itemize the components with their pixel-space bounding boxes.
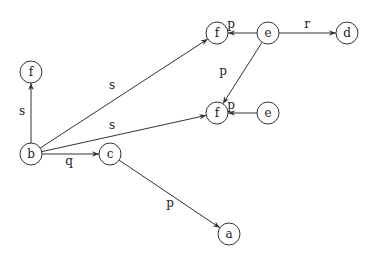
edge-label: p [219, 64, 227, 78]
edge-label: p [166, 196, 174, 210]
edge-line [40, 39, 208, 148]
edge-e-d: r [279, 17, 336, 33]
edge-e-f: p [227, 98, 257, 113]
edge-e-f: p [219, 42, 262, 103]
edge-b-f: s [40, 39, 208, 148]
edge-c-a: p [119, 160, 220, 228]
node-label: e [264, 26, 271, 40]
edge-line [223, 42, 262, 103]
edge-label: s [19, 104, 25, 118]
edge-b-c: q [42, 154, 99, 168]
node-c: c [99, 143, 121, 165]
node-label: c [107, 147, 114, 161]
node-b: b [20, 143, 42, 165]
node-label: e [264, 106, 271, 120]
node-label: b [27, 147, 35, 161]
node-label: d [343, 26, 351, 40]
graph-canvas: sssqpprpp fbcafedfe [0, 0, 376, 265]
edge-label: s [109, 78, 115, 92]
edge-label: r [304, 17, 310, 31]
edge-e-f: p [227, 17, 257, 33]
node-f: f [20, 61, 42, 83]
edge-label: s [109, 118, 115, 132]
edge-b-f: s [42, 115, 207, 151]
edge-line [119, 160, 220, 228]
node-label: a [225, 227, 232, 241]
node-a: a [218, 223, 240, 245]
edge-label: q [65, 154, 73, 168]
node-d: d [336, 22, 358, 44]
edge-line [42, 115, 207, 151]
edges-layer: sssqpprpp [19, 17, 336, 228]
node-f: f [206, 102, 228, 124]
edge-label: p [227, 17, 235, 31]
node-f: f [206, 22, 228, 44]
nodes-layer: fbcafedfe [20, 22, 358, 245]
node-e: e [257, 102, 279, 124]
edge-b-f: s [19, 83, 31, 143]
node-e: e [257, 22, 279, 44]
edge-label: p [227, 98, 235, 112]
